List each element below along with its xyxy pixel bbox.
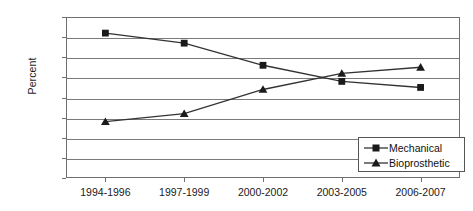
x-tick-mark — [421, 178, 422, 182]
gridline — [67, 99, 459, 100]
legend-label-mechanical: Mechanical — [389, 141, 442, 155]
y-tick-mark — [62, 118, 66, 119]
y-tick-mark — [62, 77, 66, 78]
x-tick-label: 2006-2007 — [376, 186, 466, 198]
gridline — [67, 58, 459, 59]
y-tick-mark — [62, 57, 66, 58]
x-tick-mark — [342, 178, 343, 182]
x-tick-mark — [263, 178, 264, 182]
legend-triangle-marker-icon — [363, 156, 389, 170]
y-tick-mark — [62, 158, 66, 159]
y-tick-mark — [62, 178, 66, 179]
legend-square-marker-icon — [363, 141, 389, 155]
y-axis-title: Percent — [26, 26, 38, 126]
legend-item-bioprosthetic: Bioprosthetic — [363, 155, 460, 170]
gridline — [67, 119, 459, 120]
line-chart: Percent 80%70%60%50%40%30%20%10%0% 1994-… — [0, 0, 473, 211]
x-tick-label: 1997-1999 — [139, 186, 229, 198]
gridline — [67, 38, 459, 39]
y-tick-mark — [62, 37, 66, 38]
x-tick-label: 2003-2005 — [297, 186, 387, 198]
chart-legend: Mechanical Bioprosthetic — [358, 137, 465, 172]
legend-item-mechanical: Mechanical — [363, 140, 460, 155]
gridline — [67, 78, 459, 79]
x-tick-label: 2000-2002 — [218, 186, 308, 198]
legend-label-bioprosthetic: Bioprosthetic — [389, 156, 450, 170]
x-tick-mark — [184, 178, 185, 182]
x-tick-label: 1994-1996 — [60, 186, 150, 198]
y-tick-mark — [62, 17, 66, 18]
y-tick-mark — [62, 138, 66, 139]
x-tick-mark — [105, 178, 106, 182]
y-tick-mark — [62, 98, 66, 99]
